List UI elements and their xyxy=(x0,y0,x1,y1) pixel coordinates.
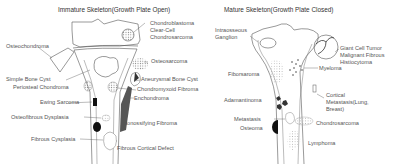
label-chondrosarcoma: Chondrosarcoma xyxy=(316,120,359,127)
label-fibrous-cortical-defect: Fibrous Cortical Defect xyxy=(117,145,174,152)
label-histiocytoma: Histiocytoma xyxy=(340,59,372,66)
label-simple-bone-cyst: Simple Bone Cyst xyxy=(6,76,50,83)
immature-title: Immature Skeleton(Growth Plate Open) xyxy=(58,6,170,13)
label-fibrous-dysplasia: Fibrous Cysplasia xyxy=(31,136,75,143)
label-cortical-metastasis: Metastasis(Lung, xyxy=(326,99,369,106)
label-aneurysmal-bone-cyst: Aneurysmal Bone Cyst xyxy=(141,76,198,83)
label-adamantinoma: Adamantinoma xyxy=(224,97,262,104)
label-chondroblastoma: Chondroblastoma xyxy=(150,20,194,27)
label-clear-cell-chondrosarcoma: Chondrosarcoma xyxy=(150,34,193,41)
immature-skeleton-panel: Immature Skeleton(Growth Plate Open) Cho… xyxy=(0,0,200,164)
label-giant-cell-tumor: Giant Cell Tumor xyxy=(340,45,382,52)
label-ewing-sarcoma: Ewing Sarcoma xyxy=(40,99,79,106)
label-chondromyxoid-fibroma: Chondromyxoid Fibroma xyxy=(137,86,198,93)
label-ganglion: Ganglion xyxy=(215,34,237,41)
mature-skeleton-panel: Mature Skeleton(Growth Plate Closed) Int… xyxy=(200,0,400,164)
label-osteochondroma: Osteochondroma xyxy=(6,43,49,50)
label-osteofibrous-dysplasia: Osteofibrous Dysplasia xyxy=(11,114,69,121)
label-enchondroma: Enchondroma xyxy=(134,95,169,102)
label-fibrosarcoma: Fiborsaroma xyxy=(228,71,259,78)
label-myeloma: Myeloma xyxy=(319,65,342,72)
label-periosteal-chondroma: Periosteal Chondroma xyxy=(13,84,69,91)
label-malignant-fibrous: Malignant Fibrous xyxy=(340,52,384,59)
label-cortical-metastasis-breast: Breast) xyxy=(326,106,344,113)
label-osteoma: Osteoma xyxy=(240,125,263,132)
label-metastasis: Metastasis xyxy=(234,116,261,123)
label-cortical: Cortical xyxy=(326,92,345,99)
label-intraosseous: Intraosseous xyxy=(215,27,247,34)
mature-title: Mature Skeleton(Growth Plate Closed) xyxy=(224,6,333,13)
label-clear-cell: Clear-Cell xyxy=(150,27,175,34)
label-lymphoma: Lymphoma xyxy=(308,140,335,147)
label-osteosarcoma: Osteosarcoma xyxy=(151,58,187,65)
label-nonossifying-fibroma: Nonossifying Fibroma xyxy=(123,120,177,127)
